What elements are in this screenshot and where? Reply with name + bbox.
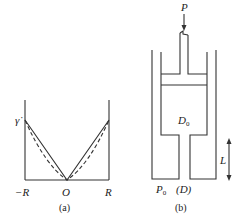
piston-top-right (188, 35, 207, 74)
length-label: L (219, 154, 226, 166)
outer-wall-right (190, 50, 216, 179)
chamber-label: D0 (177, 114, 190, 128)
length-arrow-head-up (227, 138, 232, 144)
caption-b: (b) (175, 202, 187, 214)
piston-top (161, 33, 180, 74)
x-label-r: R (104, 186, 112, 198)
caption-a: (a) (59, 202, 70, 214)
force-arrow-head (182, 25, 187, 31)
x-label-origin: O (62, 186, 70, 198)
pressure-label: P0 (155, 183, 167, 197)
figure-b (152, 14, 229, 179)
outer-wall (152, 50, 179, 179)
y-axis-label: γ̇ (15, 114, 23, 126)
diagram-canvas: γ̇ −R O R (a) P D0 L P0 (D) (b) (0, 0, 245, 220)
length-arrow-head-down (227, 175, 232, 181)
x-label-neg-r: −R (15, 186, 29, 198)
nozzle-label: (D) (176, 183, 192, 196)
force-label: P (180, 1, 188, 13)
rod-top (180, 31, 188, 35)
figure-a (25, 100, 109, 180)
linear-profile-curve (25, 120, 109, 180)
curved-profile-curve (25, 120, 109, 180)
